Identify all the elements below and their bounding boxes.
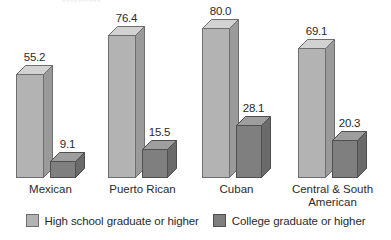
- legend-label-high-school: High school graduate or higher: [45, 215, 199, 227]
- bar-high-school[interactable]: [202, 19, 239, 178]
- bar-high-school[interactable]: [108, 26, 145, 178]
- bar-value-label: 76.4: [98, 12, 155, 24]
- bar-value-label: 69.1: [288, 25, 345, 37]
- bar-college[interactable]: [332, 131, 367, 178]
- chart-legend: High school graduate or higher College g…: [0, 214, 391, 234]
- bar-value-label: 9.1: [40, 138, 95, 150]
- bar-college[interactable]: [50, 152, 85, 178]
- category-label: Cuban: [182, 183, 292, 196]
- bar-value-label: 80.0: [192, 5, 249, 17]
- bar-value-label: 15.5: [132, 126, 187, 138]
- legend-item-high-school[interactable]: High school graduate or higher: [26, 214, 199, 227]
- bar-high-school[interactable]: [16, 65, 53, 178]
- plot-area: 55.29.1Mexican76.415.5Puerto Rican80.028…: [0, 0, 391, 182]
- bar-high-school[interactable]: [298, 39, 335, 178]
- legend-label-college: College graduate or higher: [232, 215, 366, 227]
- bar-value-label: 20.3: [322, 117, 377, 129]
- category-label: Central & South American: [278, 183, 388, 209]
- bar-college[interactable]: [236, 116, 271, 178]
- legend-swatch-high-school: [26, 214, 39, 227]
- bar-value-label: 55.2: [6, 51, 63, 63]
- bar-value-label: 28.1: [226, 102, 281, 114]
- legend-item-college[interactable]: College graduate or higher: [213, 214, 366, 227]
- bar-college[interactable]: [142, 140, 177, 178]
- legend-swatch-college: [213, 214, 226, 227]
- chart-container: •••••••••• 55.29.1Mexican76.415.5Puerto …: [0, 0, 391, 240]
